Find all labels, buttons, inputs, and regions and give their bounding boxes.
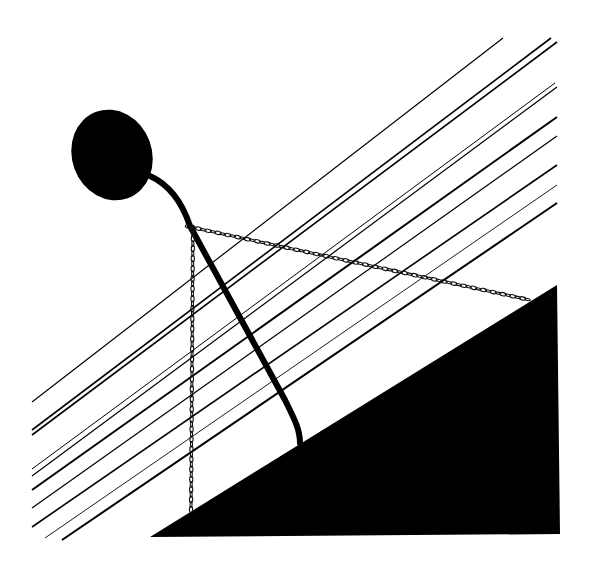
- abstract-artwork: [0, 0, 593, 569]
